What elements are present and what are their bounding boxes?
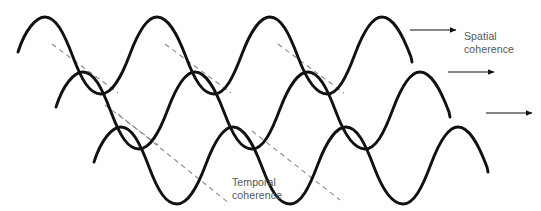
temporal-dash-1: [118, 114, 230, 204]
temporal-coherence-label: Temporal coherence: [232, 176, 282, 201]
spatial-coherence-label: Spatial coherence: [464, 30, 514, 55]
wave-top: [18, 17, 412, 94]
spatial-dash-2: [165, 44, 231, 93]
spatial-dash-1: [52, 44, 118, 93]
spatial-dash-3: [278, 44, 344, 93]
temporal-dash-3: [105, 105, 158, 145]
